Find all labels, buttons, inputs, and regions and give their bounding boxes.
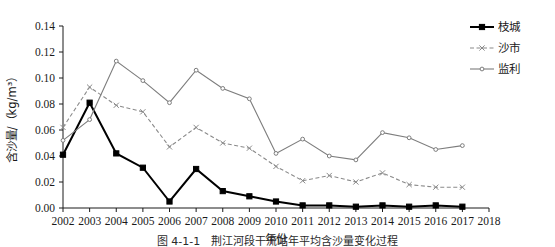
y-axis-tick-label: 0.12 [35, 46, 55, 58]
legend-layer[interactable]: 枝城沙市监利 [470, 20, 521, 76]
y-axis-title: 含沙量/（kg/m³） [5, 71, 19, 164]
data-point-square [114, 151, 119, 156]
data-point-cross [194, 125, 199, 130]
data-point-square [353, 204, 358, 209]
data-point-square [327, 203, 332, 208]
x-axis-tick-label: 2014 [371, 215, 394, 227]
data-point-dot [247, 97, 251, 101]
data-point-square [140, 165, 145, 170]
data-point-dot [88, 118, 92, 122]
data-point-dot [274, 152, 278, 156]
data-point-dot [301, 137, 305, 141]
data-point-dot [327, 154, 331, 158]
data-point-square [380, 203, 385, 208]
data-point-square [60, 152, 65, 157]
data-point-square [273, 199, 278, 204]
data-point-dot [194, 68, 198, 72]
data-point-cross [167, 144, 172, 149]
x-axis-tick-label: 2004 [105, 215, 128, 227]
x-axis-tick-label: 2006 [158, 215, 181, 227]
data-point-square [87, 100, 92, 105]
data-point-cross [87, 85, 92, 90]
x-axis-tick-label: 2008 [211, 215, 234, 227]
y-axis-tick-label: 0.06 [35, 124, 55, 136]
data-point-cross [380, 170, 385, 175]
figure-caption: 图 4-1-1 荆江河段干流站年平均含沙量变化过程 [0, 232, 555, 247]
axes-layer: 0.000.020.040.060.080.100.120.1420022003… [5, 20, 501, 246]
data-point-square [247, 194, 252, 199]
x-axis-tick-label: 2009 [238, 215, 261, 227]
data-point-dot [354, 158, 358, 162]
data-point-dot [434, 148, 438, 152]
y-axis-tick-label: 0.10 [35, 72, 55, 84]
series-0 [60, 100, 465, 209]
x-axis-tick-label: 2002 [52, 215, 75, 227]
data-point-square [479, 24, 484, 29]
legend-item-2[interactable]: 沙市 [470, 41, 520, 55]
data-point-dot [381, 131, 385, 135]
x-axis-tick-label: 2011 [291, 215, 314, 227]
data-point-square [194, 166, 199, 171]
data-point-square [167, 199, 172, 204]
series-line [63, 87, 462, 187]
legend-label: 枝城 [498, 20, 521, 34]
y-axis-tick-label: 0.08 [35, 98, 55, 110]
series-layer [60, 59, 465, 209]
data-point-cross [114, 103, 119, 108]
x-axis-tick-label: 2012 [318, 215, 341, 227]
data-point-cross [273, 164, 278, 169]
x-axis-tick-label: 2013 [344, 215, 367, 227]
x-axis-tick-label: 2003 [78, 215, 101, 227]
x-axis-tick-label: 2016 [424, 215, 447, 227]
legend-item-3[interactable]: 监利 [470, 62, 520, 76]
data-point-square [407, 204, 412, 209]
data-point-dot [221, 87, 225, 91]
data-point-dot [407, 136, 411, 140]
data-point-square [433, 203, 438, 208]
data-point-square [460, 204, 465, 209]
y-axis-tick-label: 0.00 [35, 202, 55, 214]
data-point-dot [168, 101, 172, 105]
data-point-dot [141, 79, 145, 83]
sediment-concentration-line-chart: 0.000.020.040.060.080.100.120.1420022003… [0, 0, 555, 247]
x-axis-tick-label: 2010 [265, 215, 288, 227]
x-axis-tick-label: 2015 [398, 215, 421, 227]
y-axis-tick-label: 0.14 [35, 20, 55, 32]
x-axis-tick-label: 2005 [131, 215, 154, 227]
series-2 [61, 59, 464, 162]
data-point-dot [480, 67, 484, 71]
x-axis-tick-label: 2007 [185, 215, 208, 227]
legend-item-1[interactable]: 枝城 [470, 20, 521, 34]
data-point-dot [460, 144, 464, 148]
legend-label: 监利 [498, 62, 520, 76]
y-axis-tick-label: 0.02 [35, 176, 55, 188]
data-point-square [220, 189, 225, 194]
data-point-dot [61, 139, 65, 143]
data-point-dot [114, 59, 118, 63]
legend-label: 沙市 [498, 41, 520, 55]
x-axis-tick-label: 2017 [451, 215, 474, 227]
series-line [63, 61, 462, 160]
series-line [63, 103, 462, 207]
y-axis-tick-label: 0.04 [35, 150, 55, 162]
data-point-square [300, 203, 305, 208]
figure-container: 0.000.020.040.060.080.100.120.1420022003… [0, 0, 555, 247]
x-axis-tick-label: 2018 [478, 215, 501, 227]
